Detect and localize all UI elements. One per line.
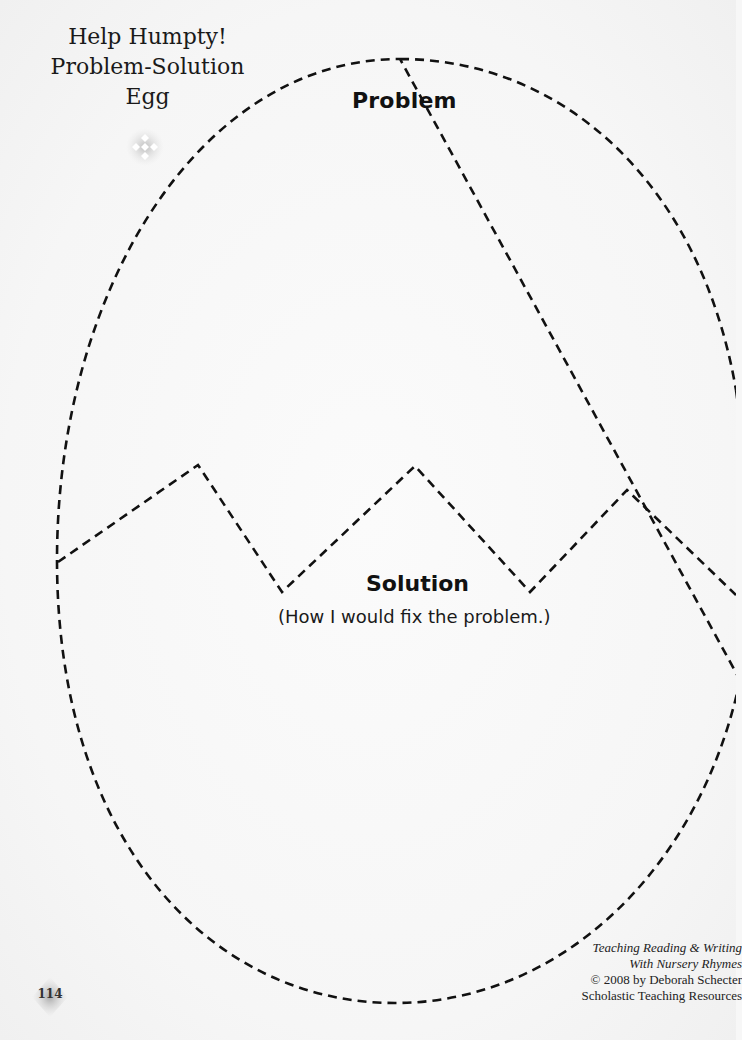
credits-book-title: Teaching Reading & Writing xyxy=(502,940,742,956)
title-line-1: Help Humpty! xyxy=(0,22,295,52)
copyright-credits: Teaching Reading & Writing With Nursery … xyxy=(502,940,742,1004)
page-number: 114 xyxy=(30,987,70,1001)
diamond-cluster-icon xyxy=(125,127,165,167)
title-line-2: Problem-Solution xyxy=(0,52,295,82)
egg-outline xyxy=(57,59,736,1003)
worksheet-title: Help Humpty! Problem-Solution Egg xyxy=(0,22,295,112)
title-line-3: Egg xyxy=(0,82,295,112)
solution-heading: Solution xyxy=(366,571,469,596)
credits-book-subtitle: With Nursery Rhymes xyxy=(502,956,742,972)
problem-heading: Problem xyxy=(352,88,457,113)
solution-subheading: (How I would fix the problem.) xyxy=(278,606,551,627)
credits-publisher: Scholastic Teaching Resources xyxy=(502,988,742,1004)
page-number-badge: 114 xyxy=(30,975,70,1019)
credits-copyright: © 2008 by Deborah Schecter xyxy=(502,972,742,988)
